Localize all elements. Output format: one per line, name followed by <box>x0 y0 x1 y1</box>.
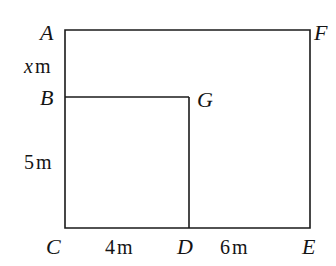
vertex-label-C: C <box>46 236 61 258</box>
measure-de-value: 6 <box>220 236 230 258</box>
vertex-label-E: E <box>302 236 315 258</box>
vertex-label-B: B <box>40 87 53 109</box>
measure-bc-value: 5 <box>24 151 34 173</box>
measure-ab-unit: m <box>35 55 51 77</box>
vertex-label-A: A <box>40 22 53 44</box>
vertex-label-F: F <box>314 22 327 44</box>
measure-label-bc: 5m <box>24 152 52 172</box>
outer-rectangle-ACEF <box>65 30 310 228</box>
measure-bc-unit: m <box>36 151 52 173</box>
vertex-label-D: D <box>177 236 193 258</box>
measure-label-cd: 4m <box>105 237 133 257</box>
measure-cd-value: 4 <box>105 236 115 258</box>
measure-label-ab: xm <box>24 56 50 76</box>
measure-label-de: 6m <box>220 237 248 257</box>
measure-cd-unit: m <box>117 236 133 258</box>
vertex-label-G: G <box>197 89 213 111</box>
measure-de-unit: m <box>232 236 248 258</box>
geometry-diagram: A B C D E F G xm 5m 4m 6m <box>0 0 336 266</box>
measure-ab-value: x <box>24 55 33 77</box>
